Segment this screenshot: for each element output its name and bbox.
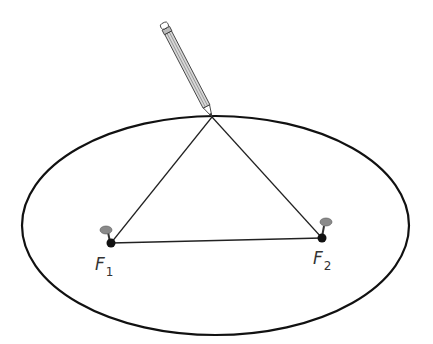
focus-label-f1: F1 bbox=[95, 256, 113, 278]
string-f1-to-pencil bbox=[111, 117, 212, 243]
pin-f2-icon bbox=[318, 218, 333, 243]
string-f2-to-pencil bbox=[212, 117, 322, 238]
focus-label-f1-subscript: 1 bbox=[106, 265, 114, 279]
focus-label-f1-letter: F bbox=[95, 254, 105, 274]
string-triangle bbox=[111, 117, 322, 243]
pin-f1-icon bbox=[100, 226, 116, 248]
focus-label-f2-letter: F bbox=[313, 248, 323, 268]
ellipse-curve bbox=[22, 116, 409, 335]
string-f1-to-f2 bbox=[111, 238, 322, 243]
focus-label-f2: F2 bbox=[313, 250, 331, 272]
ellipse-diagram bbox=[0, 0, 433, 344]
pencil-icon bbox=[159, 21, 215, 119]
focus-label-f2-subscript: 2 bbox=[324, 259, 332, 273]
